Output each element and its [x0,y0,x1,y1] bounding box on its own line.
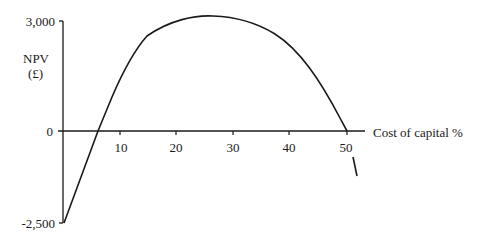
npv-curve [64,16,347,223]
x-tick-label-50: 50 [334,140,358,155]
y-axis-label-line1: NPV [23,51,49,66]
x-axis-label: Cost of capital % [373,125,463,140]
x-tick-label-30: 30 [221,140,245,155]
x-tick-label-40: 40 [277,140,301,155]
x-tick-label-10: 10 [109,140,133,155]
y-tick-label-neg2500: -2,500 [5,216,55,231]
x-tick-label-20: 20 [164,140,188,155]
y-axis-label-line2: (£) [28,66,43,81]
y-tick-label-3000: 3,000 [5,14,55,29]
npv-curve-tail [353,157,357,176]
y-tick-label-0: 0 [3,124,53,139]
chart-canvas [0,0,477,241]
